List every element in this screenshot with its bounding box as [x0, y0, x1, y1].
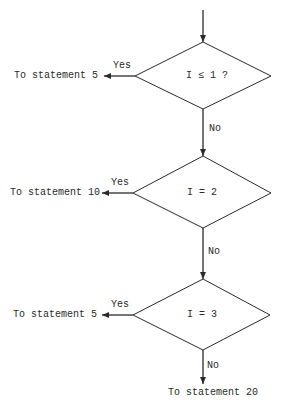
decision-1-no-label: No	[209, 123, 221, 135]
decision-1-yes-target: To statement 5	[14, 70, 98, 82]
decision-3-yes-target: To statement 5	[13, 309, 97, 321]
flowchart-shapes	[0, 0, 281, 408]
decision-2-yes-target: To statement 10	[10, 187, 100, 199]
decision-2-condition: I = 2	[187, 187, 217, 199]
decision-1-yes-label: Yes	[113, 60, 131, 72]
final-target: To statement 20	[168, 387, 258, 399]
decision-2-no-label: No	[208, 246, 220, 258]
decision-3-condition: I = 3	[187, 309, 217, 321]
decision-1-condition: I ≤ 1 ?	[186, 70, 228, 82]
flowchart: I ≤ 1 ? Yes To statement 5 No I = 2 Yes …	[0, 0, 281, 408]
decision-3-yes-label: Yes	[111, 299, 129, 311]
decision-3-no-label: No	[207, 360, 219, 372]
decision-2-yes-label: Yes	[111, 177, 129, 189]
